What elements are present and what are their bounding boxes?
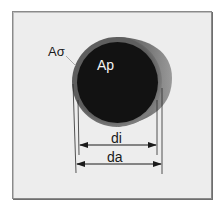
label-outer-diameter: da [107, 149, 123, 165]
arrow-right-icon [148, 142, 157, 148]
pipe-cross-section-diagram: Aσ Ap di da [0, 0, 221, 209]
arrow-right-icon [153, 161, 162, 167]
arrow-left-icon [79, 142, 88, 148]
label-inner-area: Ap [97, 57, 114, 73]
label-inner-diameter: di [111, 130, 122, 146]
pipe-interior-circle [77, 42, 158, 123]
label-wall-area: Aσ [48, 44, 65, 59]
arrow-left-icon [76, 161, 85, 167]
wall-leader-line [66, 56, 76, 66]
